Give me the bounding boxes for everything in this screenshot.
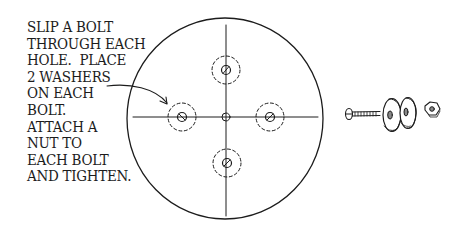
assembly-diagram: SLIP A BOLT THROUGH EACH HOLE. PLACE 2 W…: [0, 0, 464, 234]
bolt-icon: [346, 109, 381, 120]
disc-outline: [127, 18, 323, 219]
callout-arrow: [107, 85, 167, 104]
diagram-drawing: [0, 0, 464, 234]
washer-icon: [383, 99, 401, 132]
washer-icon: [400, 98, 416, 129]
nut-icon: [425, 102, 440, 117]
bolt-hole-bottom: [213, 149, 241, 177]
